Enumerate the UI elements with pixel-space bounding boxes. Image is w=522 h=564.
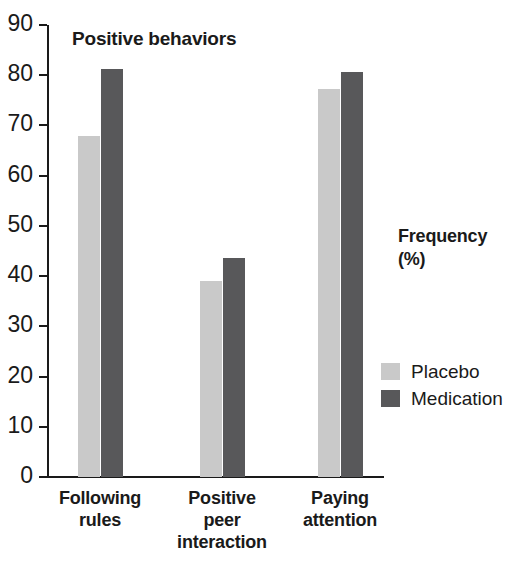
y-tick-label: 10 bbox=[0, 414, 33, 437]
y-tick bbox=[39, 376, 47, 378]
y-tick-label: 30 bbox=[0, 313, 33, 336]
y-tick bbox=[39, 325, 47, 327]
y-tick bbox=[39, 74, 47, 76]
bar-placebo-3 bbox=[318, 89, 340, 477]
legend-item-medication[interactable]: Medication bbox=[381, 385, 503, 412]
category-label-1: Followingrules bbox=[30, 487, 170, 531]
legend-label: Placebo bbox=[411, 362, 480, 381]
y-tick bbox=[39, 275, 47, 277]
y-tick-label: 70 bbox=[0, 112, 33, 135]
category-label-line: interaction bbox=[152, 531, 292, 553]
y-tick bbox=[39, 426, 47, 428]
legend-title-line-1: Frequency bbox=[398, 225, 487, 248]
legend-title-line-2: (%) bbox=[398, 248, 487, 271]
legend-title: Frequency (%) bbox=[398, 225, 487, 271]
plot-area bbox=[47, 25, 377, 477]
y-tick bbox=[39, 476, 47, 478]
y-tick-label: 40 bbox=[0, 263, 33, 286]
bar-placebo-1 bbox=[78, 136, 100, 478]
y-tick-label: 0 bbox=[0, 464, 33, 487]
y-tick-label: 20 bbox=[0, 364, 33, 387]
legend: PlaceboMedication bbox=[381, 358, 503, 412]
legend-label: Medication bbox=[411, 389, 503, 408]
bar-medication-1 bbox=[101, 69, 123, 477]
y-tick bbox=[39, 225, 47, 227]
y-tick bbox=[39, 175, 47, 177]
y-tick bbox=[39, 24, 47, 26]
category-label-line: Following bbox=[30, 487, 170, 509]
y-tick-label: 90 bbox=[0, 12, 33, 35]
category-label-3: Payingattention bbox=[270, 487, 410, 531]
bar-medication-2 bbox=[223, 258, 245, 477]
y-tick bbox=[39, 124, 47, 126]
bar-medication-3 bbox=[341, 72, 363, 477]
legend-item-placebo[interactable]: Placebo bbox=[381, 358, 503, 385]
category-label-line: rules bbox=[30, 509, 170, 531]
bar-chart-figure: Positive behaviors 9080706050403020100 F… bbox=[0, 0, 522, 564]
legend-swatch-placebo bbox=[381, 363, 400, 380]
y-tick-label: 50 bbox=[0, 213, 33, 236]
bar-placebo-2 bbox=[200, 281, 222, 477]
y-tick-label: 80 bbox=[0, 62, 33, 85]
category-label-line: attention bbox=[270, 509, 410, 531]
y-tick-label: 60 bbox=[0, 163, 33, 186]
category-label-line: Paying bbox=[270, 487, 410, 509]
legend-swatch-medication bbox=[381, 390, 400, 407]
